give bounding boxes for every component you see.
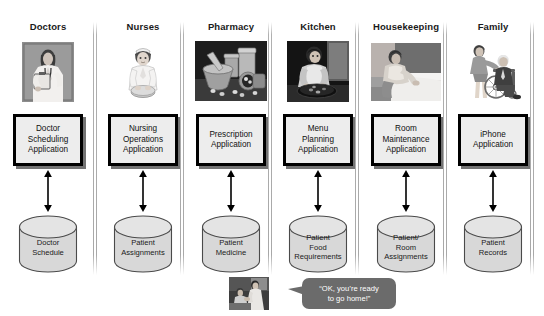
speech-bubble: “OK, you’re ready to go home!” [288,278,396,309]
lane-header-kitchen: Kitchen [276,21,360,32]
database-patient-records[interactable]: Patient Records [460,215,527,273]
photo-family [460,39,526,101]
database-patient-assignments[interactable]: Patient Assignments [110,215,177,273]
photo-pharmacy [195,41,267,101]
lane-family: Family [451,0,535,316]
lane-nurses: Nurses [101,0,185,316]
database-patient-medicine[interactable]: Patient Medicine [198,215,265,273]
application-box-nursing-operations[interactable]: Nursing Operations Application [108,114,178,166]
application-box-doctor-scheduling[interactable]: Doctor Scheduling Application [13,114,83,166]
photo-doctor [22,42,74,102]
lane-header-pharmacy: Pharmacy [188,21,274,32]
lane-divider-1 [93,22,97,275]
application-box-iphone[interactable]: iPhone Application [458,114,528,166]
application-box-room-maintenance[interactable]: Room Maintenance Application [371,114,441,166]
arrow-pharmacy [226,170,237,212]
lane-housekeeping: Housekeeping [363,0,449,316]
photo-housekeeping [371,43,441,101]
database-patient-food-requirements[interactable]: Patient Food Requirements [285,215,352,273]
arrow-doctors [43,170,54,212]
lane-header-housekeeping: Housekeeping [363,21,449,32]
lane-divider-4 [355,22,359,275]
database-doctor-schedule[interactable]: Doctor Schedule [15,215,82,273]
lane-header-family: Family [451,21,535,32]
lane-divider-5 [443,22,447,275]
photo-nurse [115,42,171,102]
lane-header-doctors: Doctors [6,21,90,32]
application-box-prescription[interactable]: Prescription Application [196,114,266,166]
lane-pharmacy: Pharmacy [188,0,274,316]
arrow-family [488,170,499,212]
speech-bubble-text: “OK, you’re ready to go home!” [319,284,379,304]
lane-divider-2 [180,22,184,275]
database-label: Patient Records [460,215,527,273]
database-label: Patient/ Room Assignments [373,215,440,273]
database-label: Patient Medicine [198,215,265,273]
database-patient-room-assignments[interactable]: Patient/ Room Assignments [373,215,440,273]
lane-doctors: Doctors [6,0,90,316]
database-label: Patient Food Requirements [285,215,352,273]
lane-divider-3 [268,22,272,275]
lane-divider-6 [530,22,534,275]
diagram-canvas: Doctors [0,0,544,316]
application-label: Prescription Application [208,130,253,151]
application-label: Room Maintenance Application [382,124,431,155]
lane-header-nurses: Nurses [101,21,185,32]
database-label: Patient Assignments [110,215,177,273]
photo-doctor-with-patient [229,277,269,310]
database-label: Doctor Schedule [15,215,82,273]
lane-kitchen: Kitchen [276,0,360,316]
speech-bubble-body: “OK, you’re ready to go home!” [302,278,396,309]
photo-kitchen [287,41,349,102]
arrow-nurses [138,170,149,212]
application-label: Nursing Operations Application [122,124,164,155]
application-label: Doctor Scheduling Application [27,124,70,155]
application-label: iPhone Application [472,130,514,151]
arrow-kitchen [313,170,324,212]
application-label: Menu Planning Application [297,124,339,155]
application-box-menu-planning[interactable]: Menu Planning Application [283,114,353,166]
arrow-housekeeping [401,170,412,212]
